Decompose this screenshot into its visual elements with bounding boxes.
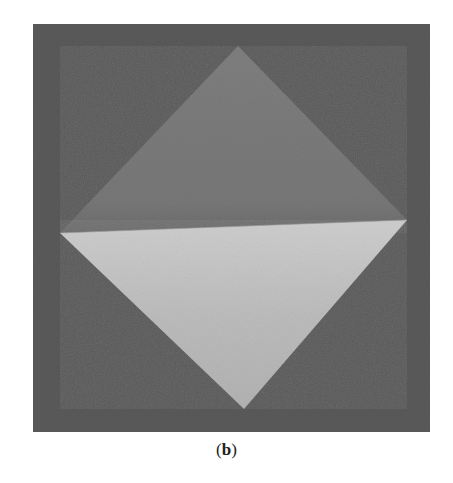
origami-photo (0, 0, 453, 483)
caption-label: b (222, 440, 231, 459)
caption-close: ) (231, 440, 237, 459)
figure-caption: (b) (0, 440, 453, 460)
figure: (b) (0, 0, 453, 483)
